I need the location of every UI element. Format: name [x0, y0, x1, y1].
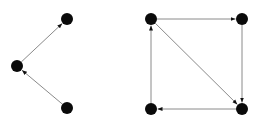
graph-right-node-top-right [236, 13, 248, 25]
graph-right-node-bottom-left [145, 103, 157, 115]
graph-left-node-top [61, 13, 73, 25]
directed-graphs-diagram [0, 0, 256, 125]
graph-right-edge-tl-to-br [155, 23, 237, 104]
graph-right-node-bottom-right [236, 103, 248, 115]
graph-left-node-middle-left [11, 60, 23, 72]
graph-left-edge-b-to-a [21, 23, 62, 61]
graph-left-edge-c-to-b [22, 70, 62, 104]
graph-right-node-top-left [145, 13, 157, 25]
graph-left-node-bottom [61, 102, 73, 114]
